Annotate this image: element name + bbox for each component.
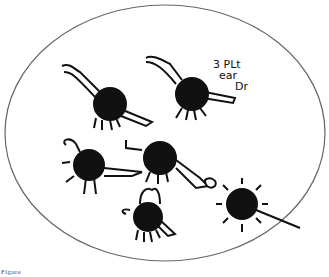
figure-1 [62, 65, 152, 130]
annotation-text: 3 PLt ear Dr [213, 59, 248, 92]
figure-6 [205, 178, 300, 232]
drawing-canvas [0, 0, 329, 277]
figure-caption: Figure [1, 268, 21, 276]
annotation-line-3: Dr [235, 81, 248, 92]
plate-outline [5, 5, 325, 261]
figure-4 [126, 140, 208, 188]
figure-5 [123, 189, 175, 242]
